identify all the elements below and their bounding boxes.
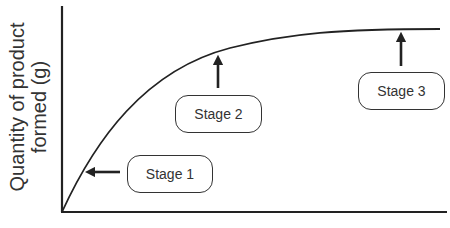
stage-1-label: Stage 1 xyxy=(146,166,194,182)
y-axis-label-line-2: formed (g) xyxy=(28,23,50,192)
stage-3-label: Stage 3 xyxy=(377,83,425,99)
stage-1-box: Stage 1 xyxy=(127,155,213,193)
stage-2-label: Stage 2 xyxy=(194,106,242,122)
y-axis-label: Quantity of product formed (g) xyxy=(6,23,50,192)
stage-2-box: Stage 2 xyxy=(175,95,262,133)
stage-3-box: Stage 3 xyxy=(358,72,445,110)
y-axis-label-line-1: Quantity of product xyxy=(6,23,28,192)
